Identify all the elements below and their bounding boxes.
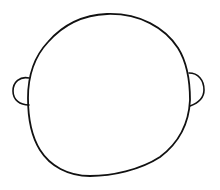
canvas-background [0, 0, 220, 190]
head-line-drawing [0, 0, 220, 190]
